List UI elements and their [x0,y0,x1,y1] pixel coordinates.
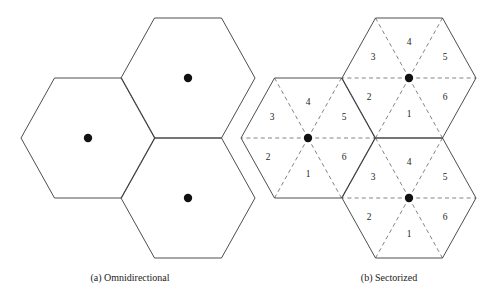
sector-label-3: 3 [270,112,275,122]
cell-group [21,18,255,258]
cellular-layout-figure: (a) Omnidirectional435261435261435261(b)… [0,0,493,299]
panel-omnidirectional: (a) Omnidirectional [21,18,255,284]
sector-label-5: 5 [342,112,347,122]
sector-label-4: 4 [407,37,412,47]
sector-divider-4 [409,198,443,258]
base-station-dot [184,74,192,82]
sector-label-6: 6 [443,212,448,222]
base-station-dot [304,134,312,142]
sector-divider-2 [409,138,443,198]
sector-divider-2 [409,18,443,78]
panels-layer: (a) Omnidirectional435261435261435261(b)… [21,18,476,284]
figure-container: (a) Omnidirectional435261435261435261(b)… [0,0,493,299]
sector-divider-5 [376,198,410,258]
sector-label-2: 2 [367,92,372,102]
panel-sectorized: 435261435261435261(b) Sectorized [241,18,476,284]
sector-label-5: 5 [443,172,448,182]
sector-label-1: 1 [407,109,412,119]
sector-label-4: 4 [306,97,311,107]
cell-group: 435261435261435261 [241,18,476,258]
sector-label-4: 4 [407,157,412,167]
sector-label-6: 6 [443,92,448,102]
omnidirectional-cell-lower-right [121,138,255,258]
sector-label-1: 1 [306,169,311,179]
sectorized-cell-lower-right: 435261 [342,138,476,258]
sectorized-cell-left: 435261 [241,78,375,198]
base-station-dot [184,194,192,202]
base-station-dot [84,134,92,142]
sector-label-3: 3 [371,172,376,182]
panel-caption-omnidirectional: (a) Omnidirectional [90,272,169,284]
sector-label-3: 3 [371,52,376,62]
omnidirectional-cell-left [21,78,155,198]
panel-caption-sectorized: (b) Sectorized [361,272,417,284]
base-station-dot [405,74,413,82]
sector-label-5: 5 [443,52,448,62]
sector-divider-4 [409,78,443,138]
sector-label-6: 6 [342,152,347,162]
sector-divider-1 [376,18,410,78]
sector-label-1: 1 [407,229,412,239]
sector-divider-5 [275,138,309,198]
sector-label-2: 2 [367,212,372,222]
omnidirectional-cell-upper-right [121,18,255,138]
sector-divider-1 [275,78,309,138]
sector-divider-5 [376,78,410,138]
sectorized-cell-upper-right: 435261 [342,18,476,138]
sector-label-2: 2 [266,152,271,162]
base-station-dot [405,194,413,202]
sector-divider-4 [308,138,342,198]
sector-divider-1 [376,138,410,198]
sector-divider-2 [308,78,342,138]
